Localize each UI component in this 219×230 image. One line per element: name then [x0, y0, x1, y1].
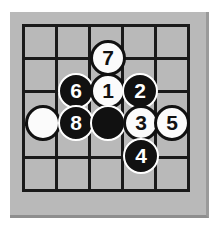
go-stone-move-5[interactable]: 5	[154, 105, 190, 141]
go-stone-label: 2	[134, 80, 146, 101]
go-stone-move-8[interactable]: 8	[58, 105, 94, 141]
go-stone-move-1[interactable]: 1	[90, 73, 126, 109]
go-stone-white-4[interactable]	[25, 105, 61, 141]
grid-line-horizontal-0	[22, 24, 190, 27]
go-stone-move-7[interactable]: 7	[90, 40, 126, 76]
grid-line-horizontal-4	[22, 156, 190, 159]
go-stone-label: 8	[70, 112, 82, 133]
grid-line-vertical-0	[22, 24, 25, 192]
go-stone-label: 7	[102, 47, 114, 68]
go-stone-move-6[interactable]: 6	[58, 73, 94, 109]
go-board[interactable]: 76128354	[10, 12, 209, 218]
grid-line-vertical-5	[187, 24, 190, 192]
go-stone-move-4[interactable]: 4	[123, 138, 159, 174]
go-stone-label: 4	[135, 145, 147, 166]
go-stone-label: 5	[166, 112, 178, 133]
go-stone-label: 1	[102, 80, 114, 101]
grid-line-horizontal-5	[22, 189, 190, 192]
go-stone-label: 3	[135, 112, 147, 133]
go-stone-black-6[interactable]	[90, 105, 126, 141]
grid-line-vertical-2	[88, 24, 91, 192]
go-stone-label: 6	[70, 80, 82, 101]
go-diagram: 76128354	[0, 0, 219, 230]
grid-line-vertical-1	[55, 24, 58, 192]
go-stone-move-2[interactable]: 2	[122, 73, 158, 109]
